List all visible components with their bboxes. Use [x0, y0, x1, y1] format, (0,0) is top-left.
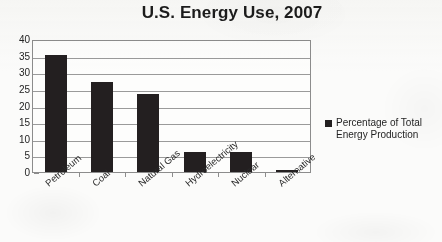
chart-screenshot: U.S. Energy Use, 2007 4035302520151050 P… [0, 0, 442, 242]
y-tick-label: 20 [8, 102, 30, 112]
x-axis-labels: PetroleumCoalNatural GasHydroelectricity… [32, 173, 332, 239]
y-tick-label: 0 [8, 168, 30, 178]
y-tick-label: 15 [8, 118, 30, 128]
bar-slot [79, 41, 125, 172]
bar-slot [33, 41, 79, 172]
y-tick-label: 35 [8, 52, 30, 62]
legend: Percentage of Total Energy Production [325, 117, 440, 141]
y-tick-label: 10 [8, 135, 30, 145]
y-tick-label: 5 [8, 151, 30, 161]
bar [45, 55, 67, 172]
bar [137, 94, 159, 172]
bar-slot [264, 41, 310, 172]
y-tick-label: 40 [8, 35, 30, 45]
bar [91, 82, 113, 172]
legend-square-marker-icon [325, 120, 332, 127]
y-tick-label: 25 [8, 85, 30, 95]
bar-slot [125, 41, 171, 172]
chart-title: U.S. Energy Use, 2007 [0, 3, 442, 23]
legend-item: Percentage of Total Energy Production [325, 117, 440, 141]
y-axis: 4035302520151050 [8, 40, 30, 173]
y-tick-label: 30 [8, 68, 30, 78]
legend-item-label: Percentage of Total Energy Production [336, 117, 436, 141]
